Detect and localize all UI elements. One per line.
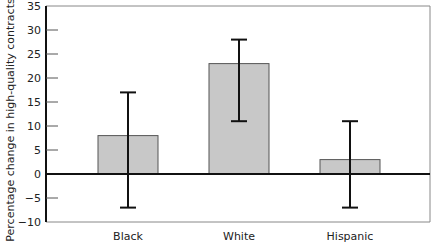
x-label-hispanic: Hispanic: [327, 230, 374, 243]
y-tick-label: 25: [27, 48, 41, 61]
y-tick-label: −10: [18, 216, 41, 229]
y-tick-label: 10: [27, 120, 41, 133]
y-tick-label: 30: [27, 24, 41, 37]
y-axis: 35302520151050−5−10: [18, 0, 58, 229]
y-tick-label: 15: [27, 96, 41, 109]
y-tick-label: 5: [34, 144, 41, 157]
y-tick-label: 35: [27, 0, 41, 13]
x-label-white: White: [223, 230, 255, 243]
x-label-black: Black: [113, 230, 143, 243]
y-axis-label: Percentage change in high-quality contra…: [4, 0, 17, 242]
y-tick-label: 20: [27, 72, 41, 85]
y-tick-label: 0: [34, 168, 41, 181]
x-axis-labels: BlackWhiteHispanic: [113, 230, 373, 243]
y-tick-label: −5: [25, 192, 41, 205]
bar-chart: 35302520151050−5−10 BlackWhiteHispanic P…: [0, 0, 434, 246]
